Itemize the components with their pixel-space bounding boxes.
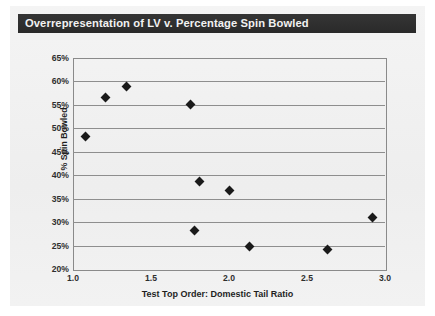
gridline xyxy=(73,199,385,200)
x-tick-label: 2.5 xyxy=(287,273,327,283)
gridline xyxy=(73,105,385,106)
x-tick-label: 2.0 xyxy=(209,273,249,283)
chart-title: Overrepresentation of LV v. Percentage S… xyxy=(25,16,309,31)
x-tick-label: 1.0 xyxy=(53,273,93,283)
gridline xyxy=(73,246,385,247)
y-tick-label: 25% xyxy=(35,241,69,251)
y-tick-label: 60% xyxy=(35,76,69,86)
gridline xyxy=(73,222,385,223)
gridline xyxy=(73,81,385,82)
y-tick-label: 45% xyxy=(35,147,69,157)
y-tick-label: 40% xyxy=(35,170,69,180)
y-tick-label: 55% xyxy=(35,100,69,110)
y-tick-label: 50% xyxy=(35,123,69,133)
y-tick-label: 35% xyxy=(35,194,69,204)
x-tick-label: 1.5 xyxy=(131,273,171,283)
gridline xyxy=(73,128,385,129)
y-tick-label: 65% xyxy=(35,53,69,63)
chart-title-bar: Overrepresentation of LV v. Percentage S… xyxy=(18,14,416,33)
y-tick-label: 30% xyxy=(35,217,69,227)
x-tick-label: 3.0 xyxy=(365,273,405,283)
x-axis-label: Test Top Order: Domestic Tail Ratio xyxy=(10,289,425,299)
gridline xyxy=(73,152,385,153)
plot-area xyxy=(73,58,387,271)
gridline xyxy=(73,175,385,176)
y-axis-label: % Spin Bowled xyxy=(59,79,69,199)
chart-figure: Overrepresentation of LV v. Percentage S… xyxy=(10,6,425,306)
